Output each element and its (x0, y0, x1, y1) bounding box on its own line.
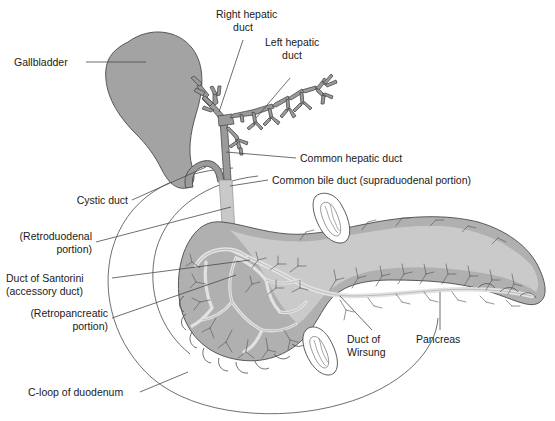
label-c-loop-duodenum: C-loop of duodenum (28, 386, 123, 398)
label-left-hepatic-duct-line1: Left hepatic (265, 36, 319, 48)
label-duct-of-wirsung-line1: Duct of (347, 333, 380, 345)
label-cystic-duct: Cystic duct (77, 194, 128, 206)
label-duct-of-santorini-line2: (accessory duct) (6, 285, 83, 297)
label-retroduodenal-line1: (Retroduodenal (20, 230, 92, 242)
label-gallbladder: Gallbladder (14, 56, 68, 68)
label-duct-of-santorini-line1: Duct of Santorini (6, 272, 84, 284)
label-pancreas: Pancreas (416, 333, 460, 345)
label-retropancreatic-line2: portion) (72, 320, 108, 332)
label-left-hepatic-duct-line2: duct (282, 49, 302, 61)
label-retropancreatic-line1: (Retropancreatic (30, 307, 108, 319)
label-common-bile-duct: Common bile duct (supraduodenal portion) (272, 174, 471, 186)
label-retroduodenal-line2: portion) (56, 243, 92, 255)
anatomy-diagram: Gallbladder Right hepatic duct Left hepa… (0, 0, 555, 421)
diagram-background (0, 0, 555, 421)
label-common-hepatic-duct: Common hepatic duct (300, 152, 402, 164)
label-duct-of-wirsung-line2: Wirsung (347, 346, 386, 358)
label-right-hepatic-duct-line2: duct (233, 21, 253, 33)
label-right-hepatic-duct-line1: Right hepatic (216, 8, 277, 20)
